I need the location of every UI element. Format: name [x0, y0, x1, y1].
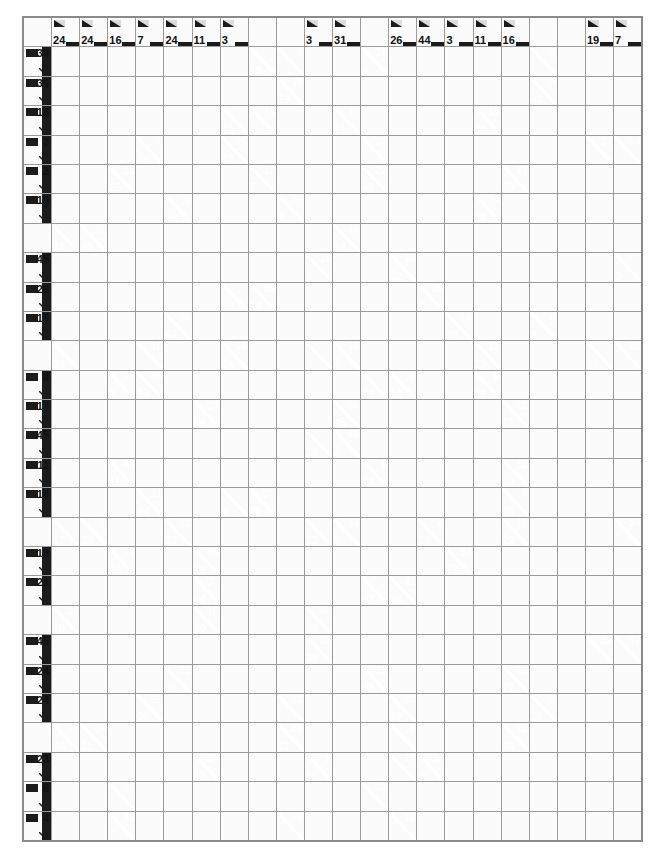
entry-cell[interactable]: [333, 164, 361, 193]
entry-cell[interactable]: [585, 47, 613, 76]
entry-cell[interactable]: [417, 253, 445, 282]
entry-cell[interactable]: [613, 311, 642, 340]
entry-cell[interactable]: [248, 723, 276, 752]
entry-cell[interactable]: [164, 782, 192, 811]
entry-cell[interactable]: [52, 811, 80, 841]
entry-cell[interactable]: [276, 282, 304, 311]
entry-cell[interactable]: [220, 517, 248, 546]
entry-cell[interactable]: [164, 47, 192, 76]
entry-cell[interactable]: [136, 47, 164, 76]
entry-cell[interactable]: [108, 517, 136, 546]
entry-cell[interactable]: [52, 782, 80, 811]
entry-cell[interactable]: [80, 576, 108, 605]
entry-cell[interactable]: [529, 811, 557, 841]
entry-cell[interactable]: [80, 76, 108, 105]
entry-cell[interactable]: [164, 605, 192, 634]
entry-cell[interactable]: [529, 400, 557, 429]
entry-cell[interactable]: [136, 605, 164, 634]
entry-cell[interactable]: [501, 311, 529, 340]
entry-cell[interactable]: [220, 458, 248, 487]
entry-cell[interactable]: [473, 429, 501, 458]
entry-cell[interactable]: [333, 194, 361, 223]
entry-cell[interactable]: [557, 635, 585, 664]
entry-cell[interactable]: [557, 311, 585, 340]
entry-cell[interactable]: [613, 547, 642, 576]
entry-cell[interactable]: [276, 223, 304, 252]
entry-cell[interactable]: [557, 282, 585, 311]
entry-cell[interactable]: [585, 76, 613, 105]
entry-cell[interactable]: [136, 811, 164, 841]
entry-cell[interactable]: [473, 76, 501, 105]
entry-cell[interactable]: [333, 782, 361, 811]
entry-cell[interactable]: [276, 341, 304, 370]
entry-cell[interactable]: [276, 752, 304, 781]
entry-cell[interactable]: [557, 782, 585, 811]
entry-cell[interactable]: [136, 576, 164, 605]
entry-cell[interactable]: [164, 400, 192, 429]
entry-cell[interactable]: [473, 311, 501, 340]
entry-cell[interactable]: [276, 253, 304, 282]
entry-cell[interactable]: [136, 400, 164, 429]
entry-cell[interactable]: [52, 458, 80, 487]
entry-cell[interactable]: [108, 47, 136, 76]
entry-cell[interactable]: [445, 370, 473, 399]
entry-cell[interactable]: [445, 723, 473, 752]
entry-cell[interactable]: [613, 76, 642, 105]
entry-cell[interactable]: [417, 664, 445, 693]
entry-cell[interactable]: [52, 635, 80, 664]
entry-cell[interactable]: [445, 106, 473, 135]
entry-cell[interactable]: [473, 811, 501, 841]
entry-cell[interactable]: [333, 547, 361, 576]
entry-cell[interactable]: [445, 664, 473, 693]
entry-cell[interactable]: [361, 341, 389, 370]
entry-cell[interactable]: [220, 576, 248, 605]
entry-cell[interactable]: [136, 782, 164, 811]
entry-cell[interactable]: [585, 664, 613, 693]
entry-cell[interactable]: [445, 429, 473, 458]
entry-cell[interactable]: [445, 194, 473, 223]
entry-cell[interactable]: [389, 635, 417, 664]
entry-cell[interactable]: [501, 282, 529, 311]
entry-cell[interactable]: [417, 370, 445, 399]
entry-cell[interactable]: [136, 752, 164, 781]
entry-cell[interactable]: [613, 400, 642, 429]
entry-cell[interactable]: [80, 370, 108, 399]
entry-cell[interactable]: [304, 693, 332, 722]
entry-cell[interactable]: [333, 47, 361, 76]
entry-cell[interactable]: [52, 488, 80, 517]
entry-cell[interactable]: [389, 76, 417, 105]
entry-cell[interactable]: [473, 282, 501, 311]
entry-cell[interactable]: [52, 547, 80, 576]
entry-cell[interactable]: [529, 547, 557, 576]
entry-cell[interactable]: [445, 223, 473, 252]
entry-cell[interactable]: [585, 282, 613, 311]
entry-cell[interactable]: [248, 400, 276, 429]
entry-cell[interactable]: [108, 429, 136, 458]
entry-cell[interactable]: [108, 253, 136, 282]
entry-cell[interactable]: [529, 106, 557, 135]
entry-cell[interactable]: [613, 782, 642, 811]
entry-cell[interactable]: [248, 576, 276, 605]
entry-cell[interactable]: [80, 664, 108, 693]
entry-cell[interactable]: [529, 194, 557, 223]
entry-cell[interactable]: [389, 547, 417, 576]
entry-cell[interactable]: [192, 635, 220, 664]
entry-cell[interactable]: [276, 429, 304, 458]
entry-cell[interactable]: [164, 135, 192, 164]
entry-cell[interactable]: [417, 47, 445, 76]
entry-cell[interactable]: [220, 47, 248, 76]
entry-cell[interactable]: [108, 194, 136, 223]
entry-cell[interactable]: [276, 370, 304, 399]
entry-cell[interactable]: [389, 282, 417, 311]
entry-cell[interactable]: [248, 605, 276, 634]
entry-cell[interactable]: [501, 605, 529, 634]
entry-cell[interactable]: [136, 223, 164, 252]
entry-cell[interactable]: [192, 106, 220, 135]
entry-cell[interactable]: [613, 164, 642, 193]
entry-cell[interactable]: [333, 253, 361, 282]
entry-cell[interactable]: [529, 664, 557, 693]
entry-cell[interactable]: [501, 811, 529, 841]
entry-cell[interactable]: [192, 253, 220, 282]
entry-cell[interactable]: [557, 517, 585, 546]
entry-cell[interactable]: [585, 458, 613, 487]
